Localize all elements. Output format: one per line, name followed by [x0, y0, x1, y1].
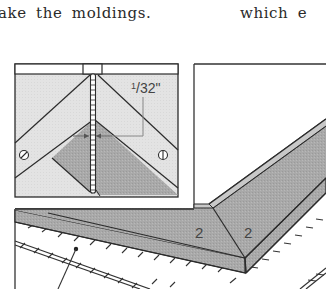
inset-detail: 1/32": [8, 58, 192, 204]
miter-joint-illustration: 2 2: [0, 0, 326, 289]
screw-icon-right: [159, 151, 168, 160]
leader-pointer: [58, 247, 78, 289]
dimension-label: 1/32": [131, 80, 160, 96]
screw-icon-left: [20, 151, 29, 160]
piece-label-left: 2: [195, 224, 203, 241]
book-page: ake the moldings. which e: [0, 0, 326, 289]
piece-label-right: 2: [244, 224, 252, 241]
